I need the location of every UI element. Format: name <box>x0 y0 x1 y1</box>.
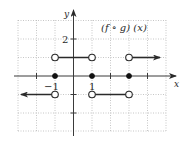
composite-function-graph: y x 2 −1 1 (f ∘ g) (x) <box>0 0 187 142</box>
x-tick-label-1: 1 <box>89 81 95 92</box>
chart-title: (f ∘ g) (x) <box>101 22 147 33</box>
y-axis-label: y <box>63 9 70 19</box>
x-tick-label-neg1: −1 <box>44 81 59 92</box>
x-axis-label: x <box>174 79 179 89</box>
y-tick-label-2: 2 <box>62 34 68 45</box>
